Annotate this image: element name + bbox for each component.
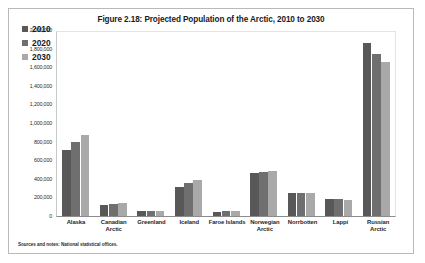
bar-group bbox=[95, 31, 133, 216]
bar-2030[interactable] bbox=[268, 171, 277, 217]
y-axis-tick-label: 400,000 bbox=[34, 177, 52, 182]
x-axis-tick-label: Alaska bbox=[57, 219, 95, 234]
x-axis-tick-label: Greenland bbox=[133, 219, 171, 234]
y-axis-tick-label: 1,000,000 bbox=[30, 121, 52, 126]
bar-2010[interactable] bbox=[62, 150, 71, 216]
y-axis-tick-label: 1,200,000 bbox=[30, 103, 52, 108]
bar-2020[interactable] bbox=[372, 54, 381, 216]
source-note: Sources and notes: National statistical … bbox=[18, 242, 117, 247]
bar-2020[interactable] bbox=[297, 193, 306, 216]
bar-2030[interactable] bbox=[381, 62, 390, 216]
bar-2020[interactable] bbox=[147, 211, 156, 216]
bar-group bbox=[245, 31, 283, 216]
legend-swatch-icon bbox=[22, 54, 28, 60]
y-axis-tick-label: 0 bbox=[49, 214, 52, 219]
bar-2030[interactable] bbox=[81, 135, 90, 216]
legend-label: 2020 bbox=[32, 39, 51, 47]
bar-2020[interactable] bbox=[334, 199, 343, 216]
bar-2030[interactable] bbox=[344, 200, 353, 216]
bar-2020[interactable] bbox=[71, 142, 80, 216]
bar-2010[interactable] bbox=[175, 187, 184, 216]
bar-2020[interactable] bbox=[222, 211, 231, 216]
y-axis-tick-label: 600,000 bbox=[34, 159, 52, 164]
bar-2020[interactable] bbox=[184, 183, 193, 216]
bar-2020[interactable] bbox=[259, 172, 268, 216]
x-axis-tick-label: Russian Arctic bbox=[359, 219, 397, 234]
legend-item-2030[interactable]: 2030 bbox=[22, 53, 51, 61]
legend-label: 2010 bbox=[32, 25, 51, 33]
bar-2030[interactable] bbox=[156, 211, 165, 216]
y-axis-tick-label: 200,000 bbox=[34, 196, 52, 201]
bars-layer bbox=[57, 31, 395, 216]
bar-2030[interactable] bbox=[118, 203, 127, 216]
bar-2030[interactable] bbox=[306, 193, 315, 216]
bar-2010[interactable] bbox=[137, 211, 146, 216]
y-axis-tick-label: 1,400,000 bbox=[30, 84, 52, 89]
chart-legend: 201020202030 bbox=[22, 25, 51, 67]
x-axis-tick-label: Lappi bbox=[321, 219, 359, 234]
x-axis-tick-label: Canadian Arctic bbox=[95, 219, 133, 234]
x-axis-tick-label: Faroe Islands bbox=[208, 219, 246, 234]
bar-2010[interactable] bbox=[250, 173, 259, 216]
bar-group bbox=[320, 31, 358, 216]
legend-swatch-icon bbox=[22, 40, 28, 46]
page-title: Figure 2.18: Projected Population of the… bbox=[9, 15, 413, 24]
plot-area bbox=[56, 31, 396, 217]
legend-label: 2030 bbox=[32, 53, 51, 61]
bar-group bbox=[132, 31, 170, 216]
x-axis: AlaskaCanadian ArcticGreenlandIcelandFar… bbox=[57, 219, 397, 234]
legend-item-2020[interactable]: 2020 bbox=[22, 39, 51, 47]
x-axis-tick-label: Norwegian Arctic bbox=[246, 219, 284, 234]
y-axis-tick-label: 800,000 bbox=[34, 140, 52, 145]
bar-2020[interactable] bbox=[109, 204, 118, 216]
bar-group bbox=[282, 31, 320, 216]
legend-item-2010[interactable]: 2010 bbox=[22, 25, 51, 33]
bar-2010[interactable] bbox=[100, 205, 109, 216]
bar-group bbox=[170, 31, 208, 216]
figure-container: Figure 2.18: Projected Population of the… bbox=[8, 8, 414, 254]
bar-2030[interactable] bbox=[193, 180, 202, 216]
x-axis-tick-label: Norrbotten bbox=[284, 219, 322, 234]
legend-swatch-icon bbox=[22, 26, 28, 32]
bar-2010[interactable] bbox=[363, 43, 372, 216]
bar-group bbox=[57, 31, 95, 216]
bar-2010[interactable] bbox=[325, 199, 334, 216]
x-axis-tick-label: Iceland bbox=[170, 219, 208, 234]
bar-2010[interactable] bbox=[288, 193, 297, 216]
bar-group bbox=[207, 31, 245, 216]
bar-2010[interactable] bbox=[213, 212, 222, 216]
bar-group bbox=[358, 31, 396, 216]
bar-2030[interactable] bbox=[231, 211, 240, 216]
